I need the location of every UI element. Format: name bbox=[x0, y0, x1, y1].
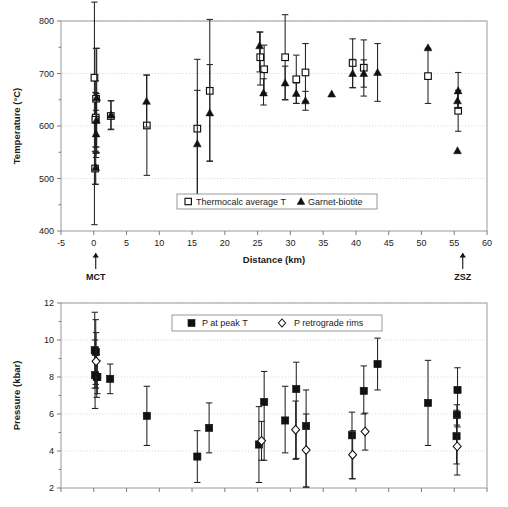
svg-text:60: 60 bbox=[482, 238, 492, 248]
marker-filled-square bbox=[424, 399, 431, 406]
legend: Thermocalc average TGarnet-biotite bbox=[177, 194, 377, 209]
marker-filled-square bbox=[293, 385, 300, 392]
svg-text:500: 500 bbox=[39, 174, 54, 184]
svg-text:800: 800 bbox=[39, 16, 54, 26]
marker-open-square bbox=[282, 54, 289, 61]
y-axis-title: Pressure (kbar) bbox=[11, 361, 22, 431]
marker-filled-triangle bbox=[454, 147, 462, 154]
svg-text:2: 2 bbox=[49, 483, 54, 493]
svg-text:600: 600 bbox=[39, 121, 54, 131]
svg-text:10: 10 bbox=[154, 238, 164, 248]
svg-text:6: 6 bbox=[49, 409, 54, 419]
marker-open-square bbox=[293, 76, 300, 83]
marker-filled-square bbox=[453, 433, 460, 440]
marker-filled-triangle bbox=[92, 130, 100, 137]
svg-text:45: 45 bbox=[384, 238, 394, 248]
marker-open-diamond bbox=[361, 427, 369, 436]
series-p-at-peak-t bbox=[91, 312, 461, 487]
svg-text:10: 10 bbox=[44, 335, 54, 345]
legend-marker-filled-square bbox=[188, 320, 195, 327]
marker-filled-square bbox=[348, 432, 355, 439]
marker-filled-triangle bbox=[292, 89, 300, 96]
svg-text:4: 4 bbox=[49, 446, 54, 456]
marker-filled-square bbox=[143, 412, 150, 419]
svg-text:35: 35 bbox=[318, 238, 328, 248]
svg-text:8: 8 bbox=[49, 372, 54, 382]
annotation-label-mct: MCT bbox=[86, 272, 106, 282]
marker-filled-triangle bbox=[424, 44, 432, 51]
svg-text:55: 55 bbox=[449, 238, 459, 248]
legend-label-p-at-peak-t: P at peak T bbox=[202, 318, 248, 328]
legend-label-thermocalc: Thermocalc average T bbox=[196, 197, 286, 207]
marker-open-diamond bbox=[453, 442, 461, 451]
marker-open-diamond bbox=[92, 357, 100, 366]
marker-filled-square bbox=[206, 424, 213, 431]
marker-open-square bbox=[302, 69, 309, 76]
gridlines bbox=[62, 21, 486, 179]
svg-text:700: 700 bbox=[39, 69, 54, 79]
svg-text:5: 5 bbox=[124, 238, 129, 248]
marker-filled-square bbox=[360, 387, 367, 394]
marker-filled-square bbox=[194, 453, 201, 460]
marker-filled-square bbox=[374, 360, 381, 367]
marker-filled-square bbox=[107, 375, 114, 382]
svg-text:50: 50 bbox=[416, 238, 426, 248]
marker-filled-triangle bbox=[302, 97, 310, 104]
annotation-arrowhead-zsz bbox=[460, 253, 466, 258]
svg-text:0: 0 bbox=[91, 238, 96, 248]
marker-filled-triangle bbox=[349, 70, 357, 77]
annotation-label-zsz: ZSZ bbox=[454, 272, 472, 282]
legend-label-garnet-biotite: Garnet-biotite bbox=[308, 197, 363, 207]
marker-filled-triangle bbox=[143, 97, 151, 104]
marker-filled-triangle bbox=[206, 109, 214, 116]
y-axis-title: Temperature (°C) bbox=[11, 88, 22, 164]
figure-container: 400500600700800-505101520253035404550556… bbox=[0, 0, 508, 507]
marker-open-diamond bbox=[292, 425, 300, 434]
svg-text:-5: -5 bbox=[57, 238, 65, 248]
svg-text:25: 25 bbox=[253, 238, 263, 248]
series-p-retrograde-rims bbox=[92, 333, 461, 487]
marker-filled-triangle bbox=[193, 140, 201, 147]
legend: P at peak TP retrograde rims bbox=[172, 315, 382, 331]
svg-text:400: 400 bbox=[39, 226, 54, 236]
marker-open-diamond bbox=[302, 446, 310, 455]
marker-open-square bbox=[425, 73, 432, 80]
svg-text:40: 40 bbox=[351, 238, 361, 248]
annotation-arrowhead-mct bbox=[93, 253, 99, 258]
data-series bbox=[91, 2, 462, 225]
legend-marker-open-square bbox=[185, 198, 191, 204]
marker-filled-square bbox=[282, 417, 289, 424]
svg-text:30: 30 bbox=[285, 238, 295, 248]
svg-text:20: 20 bbox=[220, 238, 230, 248]
marker-filled-triangle bbox=[328, 90, 336, 97]
data-series bbox=[91, 312, 461, 487]
x-axis-title: Distance (km) bbox=[243, 254, 305, 265]
marker-filled-triangle bbox=[281, 79, 289, 86]
svg-text:12: 12 bbox=[44, 298, 54, 308]
marker-filled-triangle bbox=[454, 97, 462, 104]
marker-filled-square bbox=[454, 386, 461, 393]
marker-open-square bbox=[257, 54, 264, 61]
marker-filled-triangle bbox=[374, 68, 382, 75]
svg-text:15: 15 bbox=[187, 238, 197, 248]
marker-filled-square bbox=[261, 398, 268, 405]
chart-temperature: 400500600700800-505101520253035404550556… bbox=[0, 0, 508, 290]
chart-pressure: 24681012Pressure (kbar)P at peak TP retr… bbox=[0, 290, 508, 507]
axes: 400500600700800-505101520253035404550556… bbox=[39, 16, 492, 248]
marker-open-diamond bbox=[349, 450, 357, 459]
legend-label-p-retrograde-rims: P retrograde rims bbox=[294, 318, 364, 328]
marker-filled-square bbox=[94, 373, 101, 380]
